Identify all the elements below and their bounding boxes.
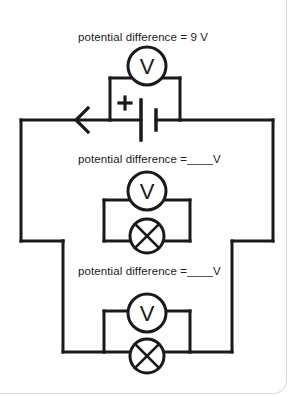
lamp-one	[130, 219, 164, 253]
lamp-two-potential-difference-label: potential difference =____V	[78, 264, 221, 278]
battery-plus-sign	[119, 97, 131, 109]
voltmeter-lamp-two-label: V	[140, 301, 155, 326]
lamp-one-potential-difference-label: potential difference =____V	[78, 152, 221, 166]
circuit-schematic: V	[0, 0, 294, 397]
circuit-diagram-canvas: V	[0, 0, 294, 397]
supply-potential-difference-label: potential difference = 9 V	[78, 30, 208, 44]
lamp-two	[130, 339, 164, 373]
voltmeter-lamp-one-label: V	[140, 179, 155, 204]
battery-symbol	[110, 100, 180, 140]
voltmeter-supply-label: V	[140, 54, 155, 79]
